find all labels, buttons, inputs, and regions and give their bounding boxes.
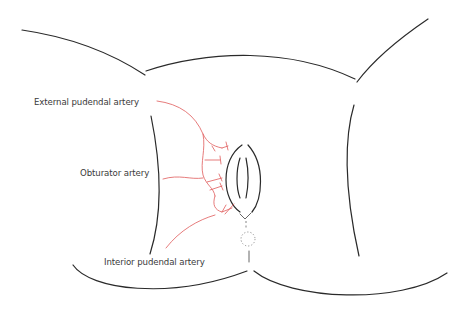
top-left-contour	[22, 30, 145, 75]
perineum-v	[240, 213, 251, 219]
artery-network	[157, 101, 234, 248]
vulva-outer-left	[226, 145, 242, 212]
top-right-contour	[357, 19, 428, 82]
anus-dotted	[241, 232, 255, 246]
bottom-left-contour	[73, 265, 247, 289]
vulva-outer-right	[248, 145, 261, 212]
bottom-right-contour	[254, 271, 447, 295]
label-interior-pudendal-artery: Interior pudendal artery	[104, 257, 205, 267]
top-center-contour	[146, 55, 355, 79]
vulva-inner-left	[237, 158, 240, 198]
label-obturator-artery: Obturator artery	[80, 168, 149, 178]
left-thigh-line	[150, 116, 159, 254]
label-external-pudendal-artery: External pudendal artery	[34, 97, 139, 107]
vulva-inner-right	[246, 158, 248, 198]
right-thigh-line	[347, 105, 359, 256]
anatomical-diagram	[0, 0, 471, 312]
